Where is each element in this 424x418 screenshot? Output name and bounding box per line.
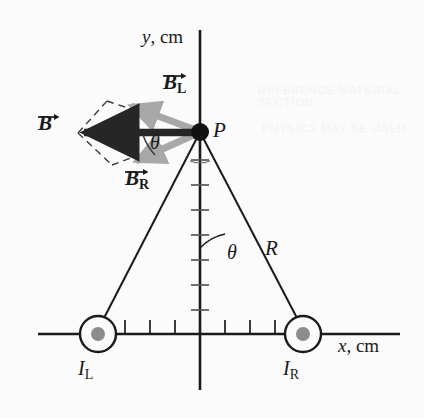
y-axis-label-unit: , cm bbox=[150, 26, 183, 47]
parallelogram-edge-upper-left bbox=[78, 101, 107, 133]
wire-right bbox=[285, 316, 321, 352]
angle-arc-p-right bbox=[200, 161, 210, 163]
bleed-artifact-line1: REFERENCE MATERIAL SECTION bbox=[258, 84, 424, 108]
angle-arc-lower bbox=[200, 234, 225, 248]
current-right-symbol: I bbox=[283, 357, 290, 379]
vector-overbar-arrow-icon bbox=[38, 113, 60, 120]
wire-left bbox=[80, 316, 116, 352]
wire-left-current-dot-icon bbox=[91, 327, 105, 341]
y-axis-label: y, cm bbox=[142, 27, 183, 46]
vector-b-left-subscript: L bbox=[177, 81, 186, 96]
bleed-artifact-line2: PHYSICS MAY BE USED bbox=[262, 122, 407, 134]
current-right-subscript: R bbox=[290, 367, 299, 382]
x-axis-label-unit: , cm bbox=[346, 335, 379, 356]
vector-overbar-arrow-icon bbox=[125, 168, 149, 175]
current-left-subscript: L bbox=[85, 367, 94, 382]
angle-theta-upper-label: θ bbox=[150, 132, 160, 152]
parallelogram-edge-lower-left bbox=[78, 133, 112, 165]
angle-theta-lower-label: θ bbox=[227, 242, 237, 262]
point-p-marker bbox=[191, 123, 209, 141]
wire-right-current-dot-icon bbox=[296, 327, 310, 341]
radius-line-left bbox=[104, 132, 200, 318]
vector-overbar-arrow-icon bbox=[163, 72, 187, 79]
vector-b-right-subscript: R bbox=[139, 177, 149, 192]
current-left-symbol: I bbox=[78, 357, 85, 379]
vector-b-left-label: BL bbox=[163, 72, 186, 96]
vector-b-right-arrow bbox=[136, 133, 198, 161]
vector-b-right-label: BR bbox=[125, 168, 149, 192]
current-left-label: IL bbox=[78, 358, 93, 382]
physics-diagram-figure: REFERENCE MATERIAL SECTION PHYSICS MAY B… bbox=[0, 0, 424, 418]
vector-b-resultant-label: B bbox=[38, 113, 52, 134]
radius-line-right bbox=[200, 132, 297, 318]
point-p-label: P bbox=[213, 120, 226, 141]
current-right-label: IR bbox=[283, 358, 299, 382]
radius-label: R bbox=[265, 238, 278, 259]
x-axis-label: x, cm bbox=[338, 336, 379, 355]
angle-arc-p-left bbox=[190, 161, 200, 163]
vector-b-left-arrow bbox=[131, 106, 198, 131]
